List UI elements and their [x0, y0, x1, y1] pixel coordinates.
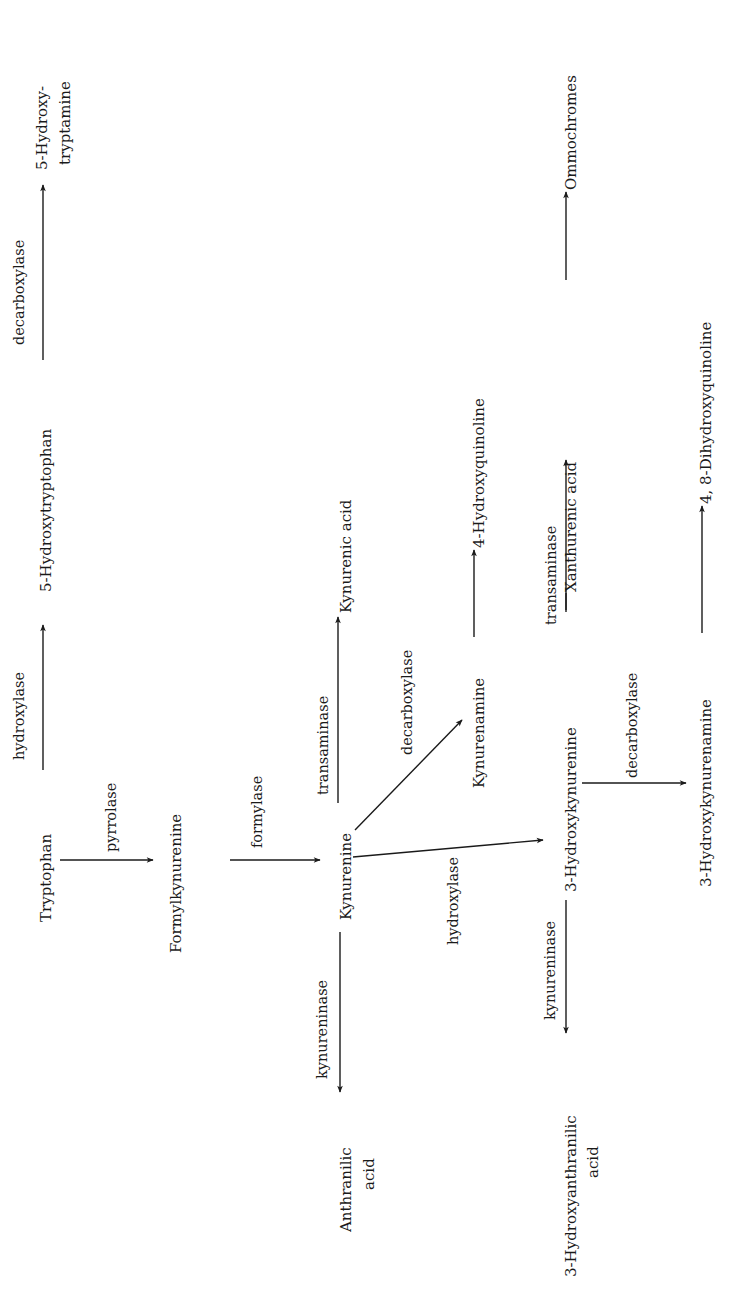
enzyme-hydroxylase-1: hydroxylase	[11, 672, 27, 760]
tryptophan-metabolism-diagram: Tryptophan hydroxylase 5-Hydroxytryptoph…	[0, 0, 729, 1290]
enzyme-pyrrolase: pyrrolase	[103, 783, 119, 852]
node-xanthurenic-acid: Xanthurenic acid	[562, 462, 580, 592]
enzyme-decarboxylase-2: decarboxylase	[399, 650, 415, 755]
enzyme-kynureninase-2: kynureninase	[542, 921, 558, 1020]
node-anthranilic-acid-line2: acid	[360, 1158, 378, 1190]
node-5-hydroxytryptamine-line2: tryptamine	[56, 81, 74, 165]
enzyme-hydroxylase-2: hydroxylase	[445, 857, 461, 945]
enzyme-formylase: formylase	[249, 776, 265, 848]
node-anthranilic-acid-line1: Anthranilic	[337, 1147, 355, 1233]
node-formylkynurenine: Formylkynurenine	[167, 814, 185, 953]
node-3-hydroxykynurenine: 3-Hydroxykynurenine	[562, 727, 580, 892]
node-4-8-dihydroxyquinoline: 4, 8-Dihydroxyquinoline	[697, 322, 715, 504]
node-3-hydroxyanthranilic-acid-line2: acid	[584, 1146, 602, 1178]
node-3-hydroxykynurenamine: 3-Hydroxykynurenamine	[697, 699, 715, 887]
node-tryptophan: Tryptophan	[37, 833, 55, 922]
node-3-hydroxyanthranilic-acid-line1: 3-Hydroxyanthranilic	[562, 1115, 580, 1277]
enzyme-decarboxylase-1: decarboxylase	[11, 240, 27, 345]
enzyme-transaminase-1: transaminase	[315, 696, 331, 795]
node-4-hydroxyquinoline: 4-Hydroxyquinoline	[470, 398, 488, 548]
enzyme-transaminase-2: transaminase	[543, 526, 559, 625]
node-kynurenic-acid: Kynurenic acid	[337, 499, 355, 613]
node-5-hydroxytryptophan: 5-Hydroxytryptophan	[37, 429, 55, 592]
enzyme-kynureninase-1: kynureninase	[314, 980, 330, 1079]
node-ommochromes: Ommochromes	[562, 75, 580, 190]
node-kynurenamine: Kynurenamine	[470, 678, 488, 788]
arrow-kynurenine-to-3-hydroxykynurenine	[353, 840, 543, 857]
enzyme-decarboxylase-3: decarboxylase	[624, 673, 640, 778]
node-5-hydroxytryptamine-line1: 5-Hydroxy-	[33, 86, 51, 170]
node-kynurenine: Kynurenine	[337, 833, 355, 920]
